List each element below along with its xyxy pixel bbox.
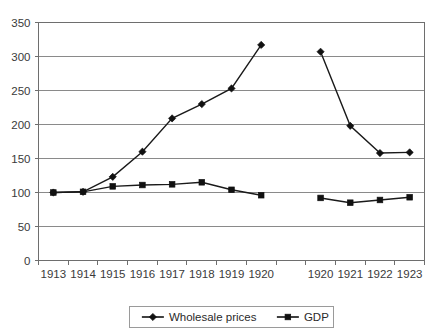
chart-container: 050100150200250300350 191319141915191619… (0, 0, 441, 332)
data-point-1-seg2-2 (377, 197, 383, 203)
data-series (50, 41, 414, 205)
data-point-1-seg2-1 (347, 200, 353, 206)
x-tick-label-1921-10: 1921 (337, 268, 363, 280)
x-tick-label-1917-4: 1917 (159, 268, 185, 280)
data-point-1-seg1-2 (110, 184, 116, 190)
data-point-0-seg2-3 (406, 149, 413, 156)
series-line-0-seg2 (321, 52, 410, 153)
y-tick-label-100: 100 (11, 187, 30, 199)
y-tick-label-150: 150 (11, 153, 30, 165)
gridlines (39, 23, 425, 227)
data-point-1-seg1-1 (80, 189, 86, 195)
x-tick-label-1916-3: 1916 (130, 268, 156, 280)
x-tick-label-1914-1: 1914 (70, 268, 96, 280)
chart-legend: Wholesale pricesGDP (130, 307, 333, 328)
data-point-1-seg1-5 (199, 180, 205, 186)
x-axis-tick-labels: 1913191419151916191719181919192019201921… (41, 268, 423, 280)
y-axis-ticks (35, 23, 39, 261)
y-tick-label-50: 50 (18, 221, 31, 233)
series-line-1-seg2 (321, 197, 410, 202)
series-line-0-seg1 (53, 45, 261, 193)
legend-marker-square-icon (285, 314, 291, 320)
y-tick-label-250: 250 (11, 85, 30, 97)
y-tick-label-200: 200 (11, 119, 30, 131)
x-tick-label-1919-6: 1919 (219, 268, 245, 280)
y-tick-label-0: 0 (24, 255, 30, 267)
x-tick-label-1922-11: 1922 (367, 268, 393, 280)
y-tick-label-350: 350 (11, 17, 30, 29)
data-point-1-seg1-6 (229, 187, 235, 193)
x-tick-label-1920-7: 1920 (248, 268, 274, 280)
data-point-1-seg1-0 (51, 190, 57, 196)
data-point-0-seg2-0 (317, 48, 324, 55)
legend-label-1: GDP (304, 311, 329, 323)
x-tick-label-1918-5: 1918 (189, 268, 215, 280)
x-tick-label-1915-2: 1915 (100, 268, 126, 280)
data-point-1-seg1-4 (169, 182, 175, 188)
x-tick-label-1920-9: 1920 (308, 268, 334, 280)
data-point-1-seg2-3 (407, 194, 413, 200)
data-point-0-seg1-5 (198, 101, 205, 108)
data-point-1-seg1-3 (140, 182, 146, 188)
data-point-1-seg1-7 (258, 192, 264, 198)
y-axis-tick-labels: 050100150200250300350 (11, 17, 30, 267)
x-axis-ticks (39, 261, 425, 265)
series-wholesale-prices (50, 41, 414, 196)
line-chart: 050100150200250300350 191319141915191619… (0, 0, 441, 332)
y-tick-label-300: 300 (11, 51, 30, 63)
data-point-1-seg2-0 (318, 195, 324, 201)
x-tick-label-1913-0: 1913 (41, 268, 67, 280)
legend-label-0: Wholesale prices (169, 311, 257, 323)
x-tick-label-1923-12: 1923 (397, 268, 423, 280)
